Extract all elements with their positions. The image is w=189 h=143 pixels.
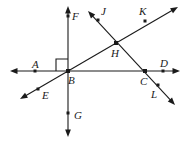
point-markers-group xyxy=(34,15,165,115)
geometry-canvas xyxy=(0,0,189,143)
point-G xyxy=(67,112,70,115)
point-B xyxy=(66,69,70,73)
lines-group xyxy=(16,10,175,132)
line-diagonal-JHCL xyxy=(92,15,172,101)
line-horizontal-ABCD-arrowhead-start xyxy=(10,68,18,74)
point-H xyxy=(114,41,118,45)
line-vertical-FBG-arrowhead-start xyxy=(65,6,71,14)
line-diagonal-EBHK-arrowhead-start xyxy=(20,93,28,99)
geometry-figure: ABCDEFGHJKL xyxy=(0,0,189,143)
point-J xyxy=(97,19,100,22)
point-C xyxy=(143,69,147,73)
point-D xyxy=(162,70,165,73)
point-F xyxy=(67,15,70,18)
point-K xyxy=(144,20,147,23)
point-E xyxy=(37,88,40,91)
line-diagonal-EBHK-arrowhead-end xyxy=(170,7,178,13)
line-vertical-FBG-arrowhead-end xyxy=(65,130,71,138)
point-L xyxy=(157,84,160,87)
point-A xyxy=(34,70,37,73)
line-horizontal-ABCD-arrowhead-end xyxy=(173,68,181,74)
